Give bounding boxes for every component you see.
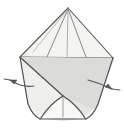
arrow-left-head-tip <box>4 79 10 80</box>
arrow-right-head-tip <box>112 89 120 90</box>
arrow-right-head <box>105 84 112 89</box>
folding-step-diagram <box>0 0 124 132</box>
upper-cone-group <box>20 8 113 58</box>
figure-container: Folding step diagram: cone shaped fabric… <box>0 0 124 132</box>
lower-body-group <box>20 57 113 121</box>
